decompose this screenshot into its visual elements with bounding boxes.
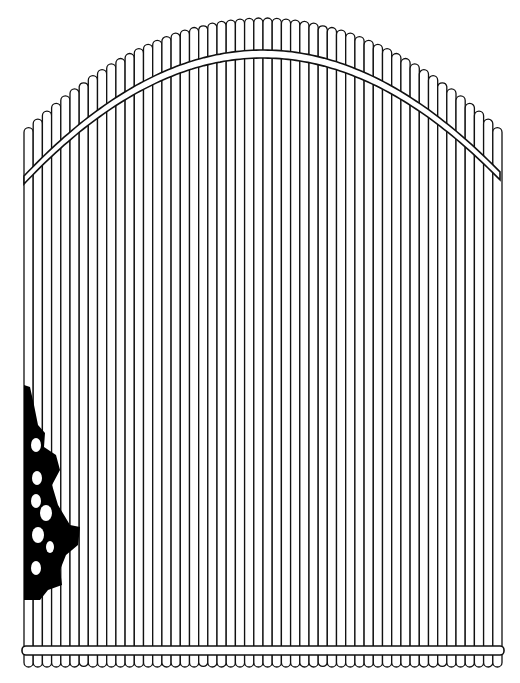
slat <box>79 83 88 667</box>
slat <box>144 44 153 667</box>
slat <box>392 54 401 668</box>
slat <box>337 30 346 667</box>
slat <box>291 20 300 667</box>
slat <box>107 64 116 667</box>
slat <box>153 40 162 667</box>
slat <box>190 28 199 668</box>
slat <box>383 49 392 667</box>
slat <box>125 53 134 667</box>
slat <box>281 19 290 667</box>
slat <box>217 21 226 667</box>
slat <box>456 96 465 667</box>
slat <box>419 70 428 667</box>
slat <box>484 119 493 667</box>
slat <box>300 21 309 667</box>
slat <box>245 18 254 667</box>
slat <box>401 58 410 667</box>
slat <box>327 27 336 667</box>
slat <box>208 23 217 667</box>
slat <box>180 30 189 667</box>
foliage-gap <box>31 438 41 452</box>
slat <box>346 33 355 667</box>
slat <box>235 19 244 667</box>
slat <box>428 76 437 667</box>
foliage-gap <box>32 471 42 485</box>
slat <box>254 18 263 667</box>
slat <box>70 89 79 667</box>
slat <box>318 26 327 667</box>
slat <box>98 70 107 667</box>
slat <box>116 59 125 667</box>
slat <box>465 103 474 667</box>
foliage-gap <box>31 561 41 575</box>
slat <box>61 96 70 667</box>
foliage-gap <box>40 505 52 521</box>
slat <box>309 23 318 667</box>
slat <box>272 18 281 667</box>
slat <box>171 33 180 667</box>
foliage-gap <box>32 527 44 543</box>
slat <box>263 18 272 667</box>
rail-bar <box>22 646 504 655</box>
slat <box>493 128 502 667</box>
slat <box>355 37 364 667</box>
slat <box>199 26 208 667</box>
slat <box>474 111 483 667</box>
slat <box>226 20 235 667</box>
slat <box>373 44 382 667</box>
bottom-rail <box>22 646 504 655</box>
slat <box>364 40 373 667</box>
foliage-gap <box>46 541 54 553</box>
foliage-gap <box>31 494 41 508</box>
slat <box>447 89 456 667</box>
slat <box>410 64 419 667</box>
slat <box>162 37 171 667</box>
slat <box>134 49 143 667</box>
slat <box>88 76 97 667</box>
slat <box>438 83 447 667</box>
gate-drawing <box>0 0 520 683</box>
